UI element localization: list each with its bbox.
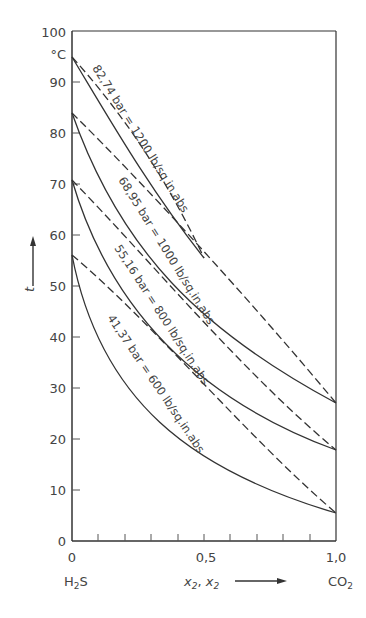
y-tick-10: 10 (49, 483, 66, 498)
x-right-component-label: CO2 (328, 574, 353, 591)
y-axis-label: t (22, 286, 37, 292)
y-tick-labels: 0 10 20 30 40 50 60 70 80 90 100 °C (41, 25, 66, 549)
curve-label-82-74: 82,74 bar = 1200 lb/sq.in.abs (89, 62, 192, 215)
y-axis-title: t (22, 236, 37, 292)
y-tick-20: 20 (49, 432, 66, 447)
plot-frame (72, 31, 336, 541)
y-tick-30: 30 (49, 381, 66, 396)
curve-82-74-bubble (72, 57, 204, 258)
x-tick-labels: 0 0,5 1,0 (68, 550, 346, 565)
x-tick-0: 0 (68, 550, 76, 565)
y-tick-0: 0 (58, 534, 66, 549)
curve-labels: 82,74 bar = 1200 lb/sq.in.abs 68,95 bar … (89, 62, 218, 455)
curve-label-68-95: 68,95 bar = 1000 lb/sq.in.abs (115, 174, 218, 327)
x-tick-0-5: 0,5 (196, 550, 217, 565)
y-tick-40: 40 (49, 330, 66, 345)
x-axis-ticks (98, 534, 310, 541)
y-tick-80: 80 (49, 126, 66, 141)
x-axis-titles: H2S x2, x2 CO2 (64, 574, 353, 591)
y-tick-50: 50 (49, 279, 66, 294)
x-left-component-label: H2S (64, 574, 88, 591)
y-unit-label: °C (50, 47, 66, 62)
arrow-right-icon (277, 578, 287, 584)
y-tick-60: 60 (49, 228, 66, 243)
curve-82-74-dew (72, 57, 204, 258)
x-axis-label: x2, x2 (183, 574, 219, 591)
x-tick-1-0: 1,0 (326, 550, 347, 565)
y-tick-100: 100 (41, 25, 66, 40)
y-tick-70: 70 (49, 177, 66, 192)
y-tick-90: 90 (49, 75, 66, 90)
arrow-up-icon (30, 236, 36, 246)
phase-diagram-chart: 0 10 20 30 40 50 60 70 80 90 100 °C t 0 … (0, 0, 366, 618)
